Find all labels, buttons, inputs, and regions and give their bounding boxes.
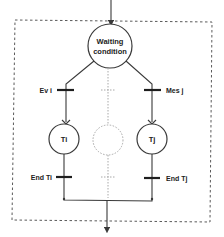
waiting-label-line2: condition bbox=[93, 47, 127, 56]
join-dot-right bbox=[151, 198, 153, 200]
arc-waiting-to-tj bbox=[126, 61, 152, 122]
tj-label: Tj bbox=[149, 135, 156, 144]
join-line bbox=[64, 198, 152, 201]
label-end-ti: End Ti bbox=[31, 174, 52, 181]
label-mes-j: Mes j bbox=[166, 87, 184, 95]
place-waiting-condition: Waiting condition bbox=[88, 24, 132, 68]
petri-net-diagram: Waiting condition Ev i Mes j Ti Tj End T… bbox=[0, 0, 224, 237]
waiting-label-line1: Waiting bbox=[97, 37, 124, 46]
join-dot-left bbox=[63, 198, 65, 200]
ghost-branch bbox=[93, 68, 123, 198]
ti-label: Ti bbox=[61, 135, 68, 144]
arc-waiting-to-ti bbox=[66, 61, 94, 122]
label-ev-i: Ev i bbox=[40, 87, 53, 94]
place-tj: Tj bbox=[137, 124, 167, 154]
place-ti: Ti bbox=[49, 124, 79, 154]
label-end-tj: End Tj bbox=[166, 175, 187, 183]
